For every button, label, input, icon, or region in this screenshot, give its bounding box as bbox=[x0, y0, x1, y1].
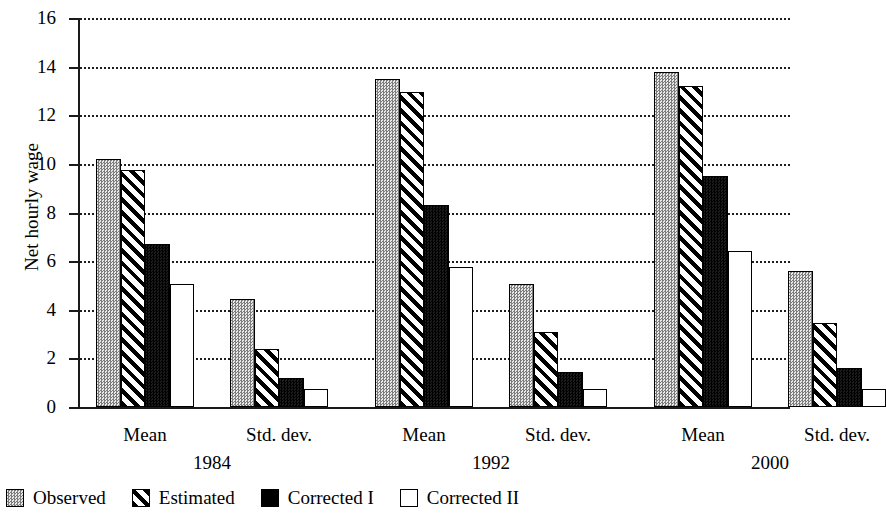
bar bbox=[400, 92, 425, 407]
bar bbox=[813, 323, 838, 407]
bar bbox=[121, 170, 146, 407]
legend-label: Corrected II bbox=[427, 487, 519, 509]
y-tick-mark: 8 bbox=[69, 213, 80, 215]
x-axis-group-label: Mean bbox=[402, 424, 445, 446]
bar bbox=[375, 79, 400, 407]
x-axis-group-label: Mean bbox=[123, 424, 166, 446]
x-axis-group-label: Mean bbox=[681, 424, 724, 446]
bar bbox=[96, 159, 121, 407]
bars-layer bbox=[80, 18, 790, 407]
bar bbox=[654, 72, 679, 408]
x-axis-line bbox=[78, 407, 790, 409]
bar bbox=[679, 86, 704, 407]
legend-swatch-corrected-ii bbox=[400, 489, 418, 507]
legend-swatch-estimated bbox=[132, 489, 150, 507]
bar bbox=[534, 332, 559, 407]
bar bbox=[279, 378, 304, 407]
y-tick-label: 16 bbox=[37, 7, 56, 29]
legend-swatch-observed bbox=[6, 489, 24, 507]
x-axis-group-label: Std. dev. bbox=[246, 424, 312, 446]
y-tick-label: 12 bbox=[37, 104, 56, 126]
bar bbox=[304, 389, 329, 407]
legend-item: Estimated bbox=[132, 487, 235, 509]
y-axis-title: Net hourly wage bbox=[21, 117, 43, 297]
y-tick-label: 14 bbox=[37, 56, 56, 78]
y-tick-mark: 4 bbox=[69, 310, 80, 312]
bar bbox=[170, 284, 195, 407]
bar bbox=[837, 368, 862, 407]
bar bbox=[255, 349, 280, 407]
bar bbox=[230, 299, 255, 407]
y-tick-mark: 0 bbox=[69, 407, 80, 409]
bar bbox=[449, 267, 474, 407]
legend-swatch-corrected-i bbox=[261, 489, 279, 507]
bar bbox=[862, 389, 886, 407]
y-tick-mark: 2 bbox=[69, 358, 80, 360]
bar bbox=[788, 271, 813, 407]
bar bbox=[145, 244, 170, 407]
y-tick-mark: 14 bbox=[69, 67, 80, 69]
plot-area: 0246810121416 bbox=[78, 18, 790, 408]
x-axis-year-label: 1992 bbox=[472, 452, 510, 474]
y-tick-label: 10 bbox=[37, 153, 56, 175]
x-axis-year-label: 1984 bbox=[193, 452, 231, 474]
legend-item: Corrected II bbox=[400, 487, 519, 509]
bar bbox=[558, 372, 583, 407]
bar bbox=[703, 176, 728, 407]
chart-legend: ObservedEstimatedCorrected ICorrected II bbox=[6, 487, 545, 509]
y-tick-label: 6 bbox=[47, 250, 57, 272]
x-axis-year-label: 2000 bbox=[751, 452, 789, 474]
y-tick-label: 8 bbox=[47, 202, 57, 224]
y-tick-label: 0 bbox=[47, 396, 57, 418]
legend-label: Observed bbox=[33, 487, 106, 509]
y-tick-label: 4 bbox=[47, 299, 57, 321]
x-axis-group-label: Std. dev. bbox=[525, 424, 591, 446]
bar bbox=[424, 205, 449, 407]
legend-label: Estimated bbox=[159, 487, 235, 509]
legend-item: Observed bbox=[6, 487, 106, 509]
legend-label: Corrected I bbox=[288, 487, 374, 509]
bar bbox=[728, 251, 753, 407]
y-tick-label: 2 bbox=[47, 347, 57, 369]
x-axis-group-label: Std. dev. bbox=[804, 424, 870, 446]
legend-item: Corrected I bbox=[261, 487, 374, 509]
bar bbox=[509, 284, 534, 407]
y-tick-mark: 6 bbox=[69, 261, 80, 263]
y-tick-mark: 10 bbox=[69, 164, 80, 166]
y-tick-mark: 16 bbox=[69, 18, 80, 20]
bar bbox=[583, 389, 608, 407]
y-tick-mark: 12 bbox=[69, 115, 80, 117]
